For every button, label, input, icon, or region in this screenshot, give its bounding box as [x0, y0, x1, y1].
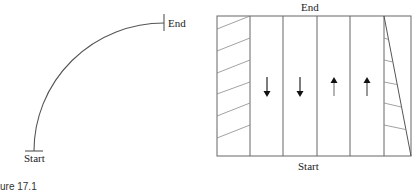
arrow-up-icon — [364, 77, 371, 96]
right-bottom-label: Start — [298, 161, 319, 172]
left-hatch — [217, 16, 250, 138]
left-end-label: End — [168, 18, 186, 29]
right-top-label: End — [301, 2, 319, 13]
figure-canvas — [0, 0, 418, 191]
strip-frame — [217, 16, 411, 156]
right-hatch — [384, 38, 406, 130]
arrow-down-icon — [264, 77, 271, 97]
arrow-up-icon — [331, 77, 338, 96]
figure-caption: ure 17.1 — [0, 182, 37, 191]
right-diagram — [217, 16, 411, 156]
curved-path — [34, 23, 164, 151]
arrow-down-icon — [297, 77, 304, 97]
taper-diagonal — [384, 16, 411, 156]
left-diagram — [25, 14, 164, 151]
left-start-label: Start — [24, 153, 45, 164]
